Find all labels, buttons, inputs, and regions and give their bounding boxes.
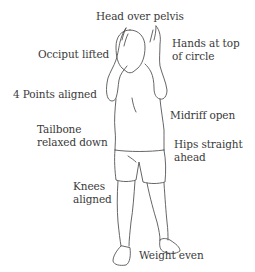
label-text: 4 Points aligned — [13, 88, 97, 100]
left-arm-outline — [107, 28, 128, 101]
shirt-crease — [132, 98, 136, 112]
label-text: ahead — [174, 151, 243, 164]
label-text: relaxed down — [37, 136, 108, 149]
label-text: Hands at top — [172, 37, 240, 50]
label-text: Midriff open — [170, 109, 235, 121]
label-text: Hips straight — [174, 138, 243, 151]
label-text: of circle — [172, 50, 240, 63]
shorts-outline — [115, 150, 166, 184]
label-text: Tailbone — [37, 123, 108, 136]
label-head-over-pelvis: Head over pelvis — [96, 10, 184, 23]
label-midriff-open: Midriff open — [170, 109, 235, 122]
right-leg-outline — [147, 183, 168, 240]
label-weight-even: Weight even — [139, 249, 204, 262]
left-foot-outline — [113, 246, 130, 265]
label-text: Head over pelvis — [96, 10, 184, 22]
torso-outline — [115, 99, 164, 150]
label-text: aligned — [73, 193, 112, 206]
label-text: Knees — [73, 180, 112, 193]
right-arm-outline — [145, 26, 167, 99]
shorts-crease — [128, 156, 136, 162]
left-leg-outline — [117, 181, 135, 246]
label-4-points-aligned: 4 Points aligned — [13, 88, 97, 101]
posture-diagram: Head over pelvis Hands at top of circle … — [0, 0, 255, 272]
label-text: Occiput lifted — [38, 48, 109, 60]
shirt-hem — [115, 150, 164, 152]
label-hands-at-top-of-circle: Hands at top of circle — [172, 37, 240, 63]
label-hips-straight-ahead: Hips straight ahead — [174, 138, 243, 164]
right-hand-fingers — [150, 26, 156, 42]
label-knees-aligned: Knees aligned — [73, 180, 112, 206]
label-occiput-lifted: Occiput lifted — [38, 48, 109, 61]
head-outline — [116, 30, 145, 73]
label-tailbone-relaxed-down: Tailbone relaxed down — [37, 123, 108, 149]
label-text: Weight even — [139, 249, 204, 261]
